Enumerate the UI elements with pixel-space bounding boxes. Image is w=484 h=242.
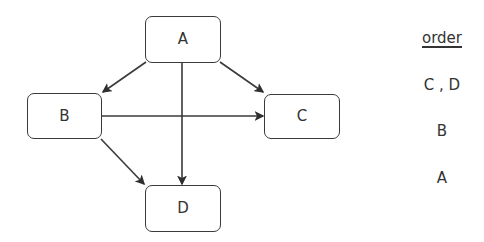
order-item-1: C , D — [400, 76, 484, 94]
order-item-3: A — [400, 169, 484, 187]
node-b-label: B — [59, 109, 69, 124]
dependency-diagram: A B C D order C , D B A — [0, 0, 484, 242]
order-title: order — [400, 29, 484, 47]
edge-a-to-c — [220, 62, 263, 92]
node-a-label: A — [178, 32, 188, 47]
edge-a-to-b — [103, 62, 146, 92]
node-d-label: D — [177, 201, 189, 216]
node-a: A — [145, 16, 221, 63]
node-d: D — [145, 185, 221, 232]
node-c: C — [264, 94, 340, 139]
order-item-2: B — [400, 122, 484, 140]
node-c-label: C — [297, 109, 307, 124]
node-b: B — [27, 93, 102, 139]
edge-b-to-d — [101, 139, 144, 184]
